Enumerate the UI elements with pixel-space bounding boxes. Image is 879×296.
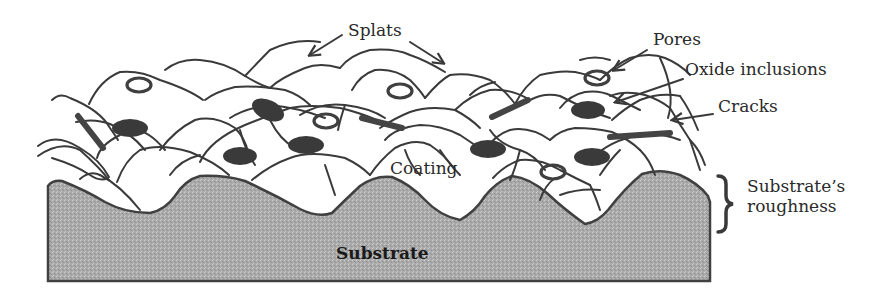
pores-label: Pores (653, 29, 701, 49)
oxide-inclusions-group (112, 94, 610, 166)
oxide-inclusion (470, 140, 506, 158)
splats-arrow-left (310, 35, 342, 55)
pores-arrow (614, 50, 647, 70)
coating-diagram (0, 0, 879, 296)
oxide-inclusion (112, 119, 148, 137)
oxide-inclusion (288, 136, 324, 154)
pores-group (127, 71, 609, 179)
substrate-region (48, 171, 710, 281)
pore (314, 114, 338, 128)
oxide-inclusions-arrow (616, 79, 683, 102)
crack (492, 100, 528, 117)
splats-label: Splats (348, 20, 402, 40)
pore (388, 84, 412, 98)
oxide-inclusion (574, 148, 610, 166)
oxide-inclusion (223, 147, 257, 165)
oxide-inclusion (571, 101, 605, 119)
roughness-brace-icon (718, 176, 733, 232)
substrate-label: Substrate (336, 243, 429, 263)
coating-label: Coating (390, 158, 457, 178)
cracks-label: Cracks (718, 96, 778, 116)
pore (127, 78, 151, 92)
crack (610, 133, 670, 137)
substrate-roughness-label: Substrate’s roughness (747, 176, 845, 217)
oxide-inclusions-label: Oxide inclusions (685, 59, 827, 79)
splats-arrow-right (410, 42, 443, 63)
